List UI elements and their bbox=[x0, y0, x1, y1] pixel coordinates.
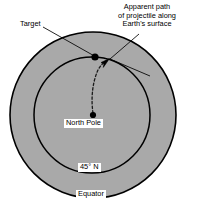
label-target: Target bbox=[20, 20, 41, 29]
label-apparent-path: Apparent path of projectile along Earth'… bbox=[100, 3, 194, 29]
label-latitude-45n: 45° N bbox=[78, 163, 101, 172]
label-equator: Equator bbox=[76, 190, 106, 199]
label-north-pole: North Pole bbox=[64, 119, 103, 128]
diagram-canvas: Target Apparent path of projectile along… bbox=[0, 0, 198, 210]
label-apparent-path-line-3: Earth's surface bbox=[100, 20, 194, 29]
earth-polar-diagram-svg bbox=[0, 0, 198, 210]
